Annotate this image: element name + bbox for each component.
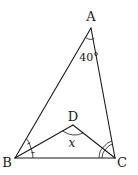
angle-c-inner-arc-right — [105, 144, 113, 150]
vertex-label-a: A — [85, 9, 96, 24]
vertex-label-d: D — [68, 109, 78, 124]
segment-cd — [73, 125, 115, 158]
angle-d-arc — [63, 131, 84, 135]
segment-ac — [91, 28, 115, 158]
angle-c-inner-arc-left — [102, 150, 105, 158]
angle-b-lower-arc — [31, 149, 33, 158]
angle-a-label: 40° — [79, 51, 99, 64]
segment-bd — [15, 125, 73, 158]
segment-ab — [15, 28, 91, 158]
angle-x-label: x — [69, 136, 76, 150]
triangle-diagram: A B C D 40° x — [0, 0, 138, 175]
vertex-label-b: B — [2, 155, 12, 170]
vertex-label-c: C — [117, 155, 127, 170]
